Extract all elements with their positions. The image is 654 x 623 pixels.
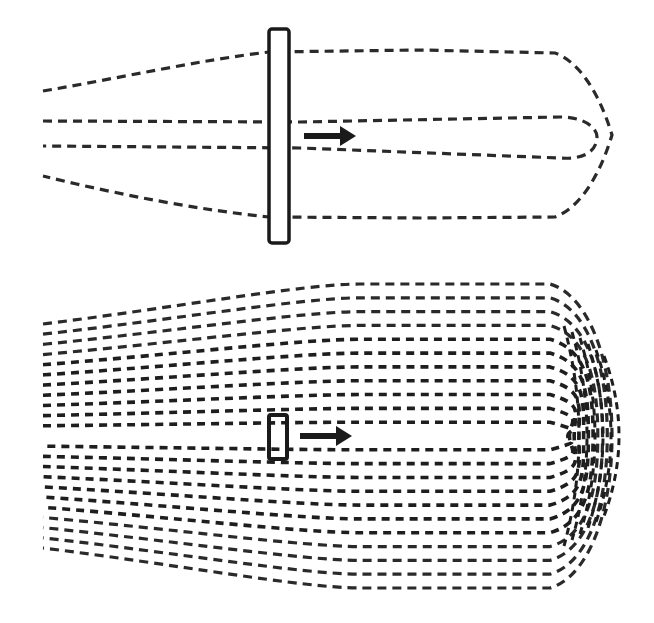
diagram-canvas xyxy=(0,0,654,623)
bottom-panel-small-plate xyxy=(0,0,654,623)
right-arrow-icon xyxy=(300,426,352,446)
